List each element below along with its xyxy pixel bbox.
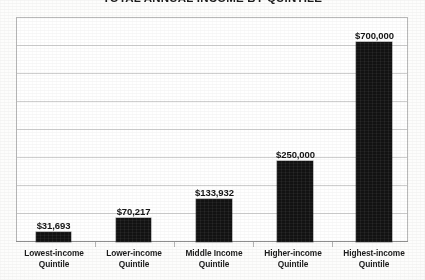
category-label-line1: Middle Income (174, 248, 254, 259)
axis-tick (253, 242, 254, 247)
bar-value-label: $133,932 (176, 187, 253, 198)
category-label: Lower-incomeQuintile (94, 248, 174, 270)
bar-value-label: $31,693 (16, 220, 91, 231)
bar-value-label: $250,000 (257, 149, 334, 160)
bar (356, 42, 392, 242)
chart-title-clip: TOTAL ANNUAL INCOME BY QUINTILE (0, 0, 425, 9)
chart-title: TOTAL ANNUAL INCOME BY QUINTILE (0, 0, 425, 4)
axis-tick (95, 242, 96, 247)
gridline (17, 101, 407, 102)
category-label-line2: Quintile (332, 259, 416, 270)
gridline (17, 157, 407, 158)
bar-value-label: $70,217 (96, 206, 171, 217)
category-label-line2: Quintile (94, 259, 174, 270)
bar (36, 232, 71, 242)
category-label: Higher-incomeQuintile (253, 248, 333, 270)
category-label: Lowest-incomeQuintile (14, 248, 94, 270)
axis-tick (174, 242, 175, 247)
category-label-line2: Quintile (253, 259, 333, 270)
category-label: Highest-incomeQuintile (332, 248, 416, 270)
gridline (17, 129, 407, 130)
category-label-line2: Quintile (14, 259, 94, 270)
gridline (17, 185, 407, 186)
category-label-line2: Quintile (174, 259, 254, 270)
category-label: Middle IncomeQuintile (174, 248, 254, 270)
axis-tick (332, 242, 333, 247)
gridline (17, 45, 407, 46)
bar-value-label: $700,000 (336, 30, 413, 41)
category-label-line1: Higher-income (253, 248, 333, 259)
bar (116, 218, 151, 242)
bar (277, 161, 313, 242)
category-label-line1: Lower-income (94, 248, 174, 259)
bar (196, 199, 232, 242)
category-label-line1: Highest-income (332, 248, 416, 259)
gridline (17, 73, 407, 74)
category-label-line1: Lowest-income (14, 248, 94, 259)
